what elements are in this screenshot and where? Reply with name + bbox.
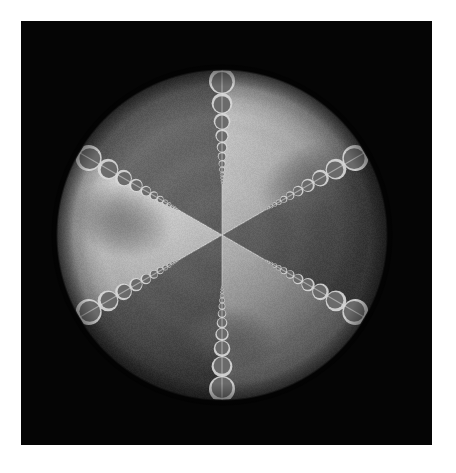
figure-stage: [0, 0, 456, 473]
fractal-sphere-canvas: [0, 0, 456, 473]
